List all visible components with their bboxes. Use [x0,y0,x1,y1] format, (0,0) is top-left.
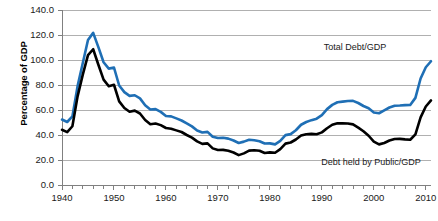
series-line-public-debt [62,49,431,155]
series-label-public-debt: Debt held by Public/GDP [321,157,421,167]
series-label-total-debt: Total Debt/GDP [324,42,387,52]
plot-area [0,0,438,221]
chart-container: Percentage of GDP 0.020.040.060.080.0100… [0,0,438,221]
